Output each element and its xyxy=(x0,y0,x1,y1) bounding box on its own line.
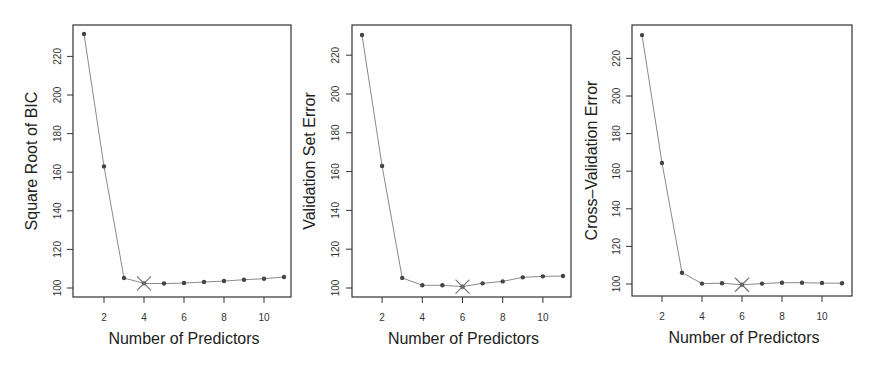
data-point xyxy=(720,281,724,285)
y-tick-label: 200 xyxy=(611,87,622,104)
y-axis-label: Cross–Validation Error xyxy=(583,80,600,240)
x-tick-label: 6 xyxy=(739,311,745,322)
plot-frame xyxy=(632,25,852,296)
chart-panel-cv: 100120140160180200220246810Cross–Validat… xyxy=(0,0,875,366)
y-tick-label: 220 xyxy=(611,50,622,67)
data-point xyxy=(660,161,664,165)
data-point xyxy=(700,281,704,285)
data-point xyxy=(820,281,824,285)
chart-svg: 100120140160180200220246810Cross–Validat… xyxy=(0,0,875,366)
data-point xyxy=(760,281,764,285)
x-tick-label: 4 xyxy=(699,311,705,322)
data-point xyxy=(780,280,784,284)
y-tick-label: 160 xyxy=(611,162,622,179)
series-line xyxy=(642,35,842,285)
y-tick-label: 140 xyxy=(611,200,622,217)
data-point xyxy=(800,280,804,284)
y-tick-label: 120 xyxy=(611,238,622,255)
y-tick-label: 100 xyxy=(611,275,622,292)
x-tick-label: 8 xyxy=(779,311,785,322)
x-tick-label: 10 xyxy=(816,311,828,322)
x-tick-label: 2 xyxy=(659,311,665,322)
data-point xyxy=(840,281,844,285)
y-tick-label: 180 xyxy=(611,125,622,142)
data-point xyxy=(680,271,684,275)
data-point xyxy=(640,33,644,37)
x-axis-label: Number of Predictors xyxy=(668,329,819,346)
